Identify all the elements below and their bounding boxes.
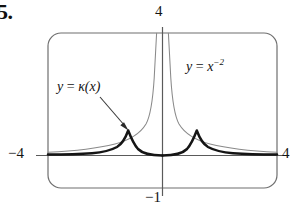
curvature-figure: 5. 4 −4 4 −1 y = κ(x) y = x−2 <box>0 0 302 214</box>
graph-canvas <box>0 0 302 214</box>
axis-label-top: 4 <box>155 4 163 19</box>
power-label-lhs: y <box>186 59 192 74</box>
power-curve-label: y = x−2 <box>186 58 224 74</box>
kappa-curve-label: y = κ(x) <box>57 80 100 94</box>
axis-label-left: −4 <box>8 146 24 161</box>
axis-label-bottom: −1 <box>145 190 161 205</box>
power-label-exponent: −2 <box>213 57 224 67</box>
power-label-equals: = <box>196 59 204 74</box>
axis-label-right: 4 <box>282 146 290 161</box>
kappa-label-lhs: y <box>57 79 63 94</box>
kappa-label-equals: = <box>67 79 75 94</box>
kappa-label-function: κ(x) <box>78 79 100 94</box>
